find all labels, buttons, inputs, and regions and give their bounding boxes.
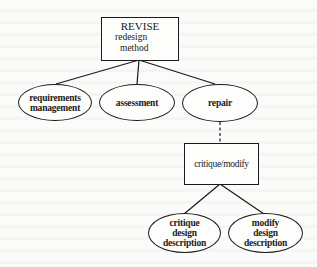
critique-modify-method-node: critique/modify bbox=[184, 143, 259, 185]
node-label-line: management bbox=[30, 103, 80, 113]
node-label-line: description bbox=[163, 238, 206, 248]
node-label-line: modify bbox=[252, 218, 279, 228]
edge-method-critique bbox=[184, 184, 220, 214]
edge-root-repair bbox=[139, 60, 215, 84]
revise-line3: method bbox=[102, 43, 178, 54]
node-label-line: assessment bbox=[116, 98, 158, 108]
node-label-line: requirements bbox=[29, 93, 81, 103]
critique-design-description-node: critique design description bbox=[148, 213, 221, 253]
modify-design-description-node: modify design description bbox=[228, 213, 303, 253]
revise-line2: redesign bbox=[102, 32, 178, 43]
method-label: critique/modify bbox=[194, 159, 249, 169]
node-label-line: design bbox=[253, 228, 278, 238]
node-label-line: critique bbox=[169, 218, 199, 228]
revise-title: REVISE bbox=[102, 20, 178, 32]
node-label-line: description bbox=[244, 238, 287, 248]
requirements-management-node: requirements management bbox=[18, 84, 92, 121]
edge-root-requirements bbox=[56, 60, 139, 84]
repair-node: repair bbox=[182, 84, 258, 122]
node-label-line: repair bbox=[208, 98, 232, 108]
edge-root-assessment bbox=[137, 60, 139, 84]
revise-method-node: REVISE redesign method bbox=[101, 17, 179, 61]
node-label-line: design bbox=[172, 228, 197, 238]
assessment-node: assessment bbox=[99, 84, 175, 121]
edge-method-modify bbox=[220, 184, 264, 214]
